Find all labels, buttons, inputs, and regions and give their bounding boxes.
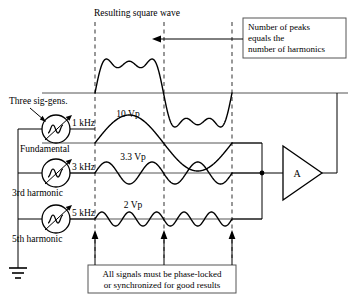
fundamental-amplitude-label: 10 Vp [116,109,140,119]
amplifier[interactable]: A [283,146,322,200]
callout-peaks-line1: Number of peaks [248,22,310,32]
signal-generator-fifth-harmonic-freq: 5 kHz [72,208,95,218]
callout-phase-lock-line1: All signals must be phase-locked [103,269,222,279]
callout-peaks-line2: equals the [248,33,284,43]
callout-phase-lock-line2: or synchronized for good results [104,280,221,290]
fifth-harmonic-amplitude-label: 2 Vp [124,200,143,210]
signal-generator-fifth-harmonic-name: 5th harmonic [12,234,62,244]
amplifier-triangle [283,146,322,200]
signal-generator-third-harmonic-name: 3rd harmonic [12,188,63,198]
summing-bus [232,143,283,219]
amplifier-output-wire [322,93,337,173]
signal-generator-third-harmonic-freq: 3 kHz [72,162,95,172]
callout-peaks-pointer [152,36,243,43]
callout-phase-lock: All signals must be phase-locked or sync… [88,265,236,293]
signal-generator-fundamental-name: Fundamental [20,144,70,154]
callout-peaks-line3: number of harmonics [248,44,325,54]
phase-marker-lines [95,22,232,258]
sig-gens-label: Three sig-gens. [9,96,68,106]
signal-generator-fundamental-freq: 1 kHz [72,118,95,128]
ground-icon [9,258,27,278]
callout-peaks: Number of peaks equals the number of har… [243,18,346,58]
third-harmonic-amplitude-label: 3.3 Vp [120,152,146,162]
callout-phase-lock-pointers [92,230,236,265]
harmonic-synthesis-diagram: Resulting square wave Number of peaks eq… [0,0,348,299]
amplifier-label: A [293,168,301,179]
sig-gens-pointer [30,108,46,122]
square-wave-title: Resulting square wave [94,8,180,18]
